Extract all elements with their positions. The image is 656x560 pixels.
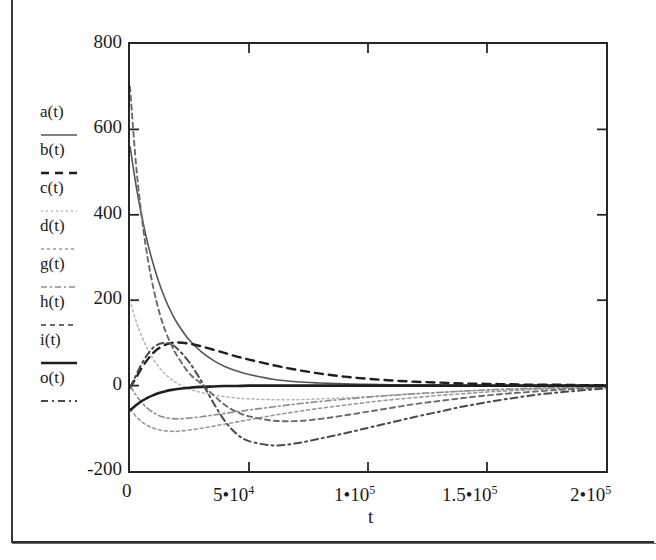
series-ot: [130, 343, 606, 446]
legend-swatch-h: [41, 313, 77, 316]
y-tick-400: 400: [56, 203, 122, 222]
legend-label-g: g(t): [40, 255, 98, 272]
legend-swatch-c: [41, 199, 77, 202]
y-tick-0: 0: [56, 374, 122, 393]
legend-entry-d: d(t): [40, 217, 98, 255]
y-tick-800: 800: [56, 32, 122, 51]
legend-label-c: c(t): [40, 179, 98, 196]
plot-curves: [130, 44, 606, 471]
series-dt: [130, 387, 606, 432]
x-tick-100000: 1•105: [334, 481, 375, 504]
legend-entry-b: b(t): [40, 141, 98, 179]
legend-label-b: b(t): [40, 141, 98, 158]
legend-label-i: i(t): [40, 331, 98, 348]
legend-swatch-b: [41, 161, 77, 164]
x-tick-200000: 2•105: [570, 481, 611, 504]
x-tick-150000: 1.5•105: [442, 481, 497, 504]
x-tick-50000: 5•104: [213, 481, 254, 504]
legend-swatch-i: [41, 351, 77, 354]
y-tick--200: -200: [56, 459, 122, 478]
y-tick-600: 600: [56, 117, 122, 136]
y-tick-200: 200: [56, 288, 122, 307]
plot-area: [128, 42, 608, 473]
series-ht: [130, 87, 606, 422]
legend-swatch-g: [41, 275, 77, 278]
series-at: [130, 146, 606, 385]
x-tick-0: 0: [122, 481, 132, 500]
legend: a(t) b(t) c(t) d(t) g(t) h(t) i(t) o(t): [40, 103, 98, 407]
legend-entry-i: i(t): [40, 331, 98, 369]
x-axis-title: t: [368, 506, 373, 528]
figure-container: a(t) b(t) c(t) d(t) g(t) h(t) i(t) o(t): [0, 0, 656, 560]
legend-swatch-d: [41, 237, 77, 240]
